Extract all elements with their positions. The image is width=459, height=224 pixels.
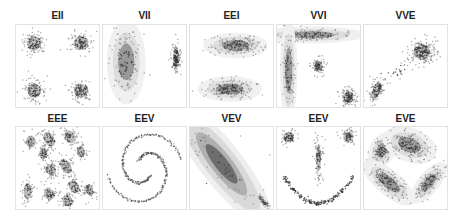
scatter-panel-eev	[276, 126, 361, 210]
panel-title: EEE	[15, 113, 100, 125]
panel-title: VEV	[189, 113, 274, 125]
scatter-panel-vvi	[276, 24, 361, 108]
panel-title: EEV	[276, 113, 361, 125]
scatter-panel-eve	[363, 126, 448, 210]
panel-title: EII	[15, 10, 100, 22]
panel-title: EEV	[102, 113, 187, 125]
scatter-panel-vev	[189, 126, 274, 210]
panel-title: EEI	[189, 10, 274, 22]
panel-title: EVE	[363, 113, 448, 125]
panel-title: VII	[102, 10, 187, 22]
scatter-panel-vve	[363, 24, 448, 108]
scatter-panel-eee	[15, 126, 100, 210]
scatter-panel-eev	[102, 126, 187, 210]
scatter-panel-vii	[102, 24, 187, 108]
scatter-panel-eei	[189, 24, 274, 108]
panel-title: VVE	[363, 10, 448, 22]
scatter-panel-eii	[15, 24, 100, 108]
panel-title: VVI	[276, 10, 361, 22]
